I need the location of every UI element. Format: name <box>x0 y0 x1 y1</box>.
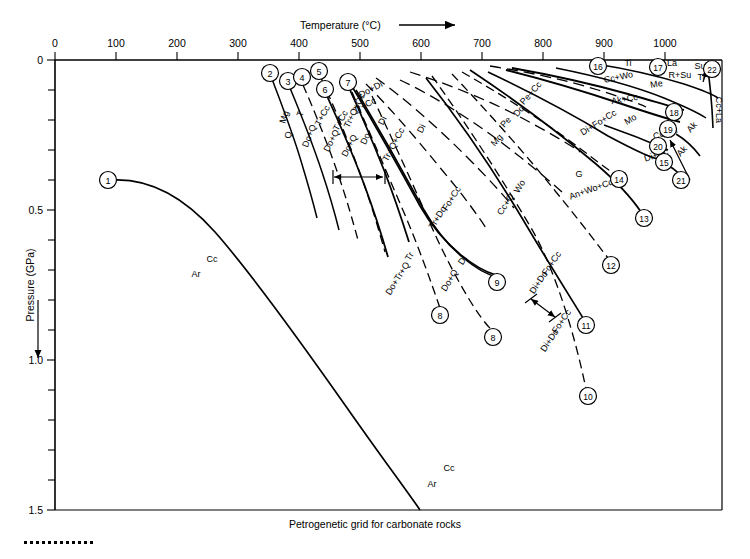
reaction-label: Ti <box>697 72 704 82</box>
marker-1: 1 <box>100 172 117 189</box>
y-tick-15: 1.5 <box>28 504 43 516</box>
marker-4: 4 <box>294 69 311 86</box>
reaction-label: G <box>575 169 582 179</box>
x-tick-200: 200 <box>168 37 186 49</box>
x-tick-500: 500 <box>351 37 369 49</box>
marker-10: 10 <box>580 388 597 405</box>
x-tick-800: 800 <box>534 37 552 49</box>
marker-15: 15 <box>656 154 673 171</box>
reaction-label: Di <box>376 114 389 126</box>
reaction-label: Cc+Q <box>495 192 516 217</box>
reaction-label: Di+Do <box>538 327 560 354</box>
marker-label: 12 <box>606 261 616 271</box>
reaction-label: Di <box>415 122 428 134</box>
marker-label: 18 <box>669 108 679 118</box>
marker-label: 19 <box>663 125 673 135</box>
reaction-label: Cc+La <box>714 97 724 123</box>
marker-label: 8 <box>437 311 442 321</box>
marker-label: 3 <box>285 77 290 87</box>
marker-label: 1 <box>105 176 110 186</box>
x-tick-600: 600 <box>412 37 430 49</box>
reaction-label: Do+Q <box>300 123 318 149</box>
marker-label: 21 <box>676 176 686 186</box>
reaction-label: Ti <box>624 58 631 68</box>
reaction-label: Do <box>358 131 372 146</box>
marker-label: 5 <box>316 67 321 77</box>
marker-label: 15 <box>659 158 669 168</box>
marker-label: 9 <box>494 278 499 288</box>
marker-20: 20 <box>650 138 667 155</box>
reaction-label: Do+Tr+Q <box>383 260 411 297</box>
reaction-label: Mo <box>622 112 638 127</box>
text-layer: Temperature (°C) 0 100 200 300 400 500 6… <box>0 0 750 559</box>
reaction-label: Tr <box>403 250 416 262</box>
y-tick-0: 0 <box>37 54 43 66</box>
reaction-label: Di+Fo+Cc <box>579 107 619 137</box>
marker-8b: 8 <box>485 329 502 346</box>
x-tick-700: 700 <box>473 37 491 49</box>
y-tick-10: 1.0 <box>28 354 43 366</box>
reaction-label: Me <box>649 78 663 90</box>
marker-18: 18 <box>666 104 683 121</box>
reaction-label: Ak <box>685 119 700 134</box>
reaction-label: Mg <box>277 110 290 125</box>
marker-17: 17 <box>650 59 667 76</box>
marker-label: 4 <box>299 73 304 83</box>
x-tick-labels: 0 100 200 300 400 500 600 700 800 900 10… <box>52 37 677 49</box>
reaction-label: Pe+Cc <box>518 79 544 106</box>
reaction-label: Cc <box>444 463 455 473</box>
x-tick-300: 300 <box>229 37 247 49</box>
x-tick-900: 900 <box>595 37 613 49</box>
reaction-label: Ak <box>675 143 690 158</box>
numbered-markers: 1 2 3 4 5 6 7 8 8 9 10 11 12 13 14 15 16… <box>100 58 721 405</box>
y-axis-title: Pressure (GPa) <box>24 249 36 322</box>
marker-label: 22 <box>707 65 717 75</box>
reaction-label: Ak+Cc <box>610 92 639 107</box>
reaction-label: Di <box>456 254 469 267</box>
x-tick-1000: 1000 <box>653 37 677 49</box>
marker-label: 7 <box>345 78 350 88</box>
marker-label: 10 <box>583 392 593 402</box>
reaction-label: An+Wo+Cc <box>568 176 615 201</box>
x-tick-0: 0 <box>52 37 58 49</box>
reaction-label: Tr+Do <box>427 204 449 230</box>
marker-label: 13 <box>639 214 649 224</box>
marker-2: 2 <box>262 65 279 82</box>
reaction-label: La <box>667 58 677 68</box>
petrogenetic-grid-figure: Temperature (°C) 0 100 200 300 400 500 6… <box>0 0 750 559</box>
marker-21: 21 <box>673 172 690 189</box>
marker-9: 9 <box>489 274 506 291</box>
reaction-label: Cc <box>207 254 218 264</box>
reaction-label: Ar <box>192 269 201 279</box>
reaction-label: T <box>295 109 307 118</box>
marker-label: 11 <box>582 321 591 331</box>
reaction-label: Cc+Wo <box>603 69 634 85</box>
reaction-label: Wo <box>512 178 528 195</box>
marker-11: 11 <box>578 317 595 334</box>
marker-label: 17 <box>653 63 663 73</box>
marker-label: 20 <box>653 142 663 152</box>
reaction-label: Tr+Q+Cc <box>380 126 406 164</box>
x-axis-title: Temperature (°C) <box>300 19 381 31</box>
reaction-label: Di+Do <box>527 269 549 296</box>
marker-22: 22 <box>704 61 721 78</box>
reaction-label: Q <box>282 130 294 140</box>
marker-label: 6 <box>322 85 327 95</box>
marker-16: 16 <box>590 58 607 75</box>
marker-label: 14 <box>614 175 624 185</box>
reaction-label: T+Cc <box>313 103 332 127</box>
x-tick-400: 400 <box>290 37 308 49</box>
marker-14: 14 <box>611 171 628 188</box>
figure-caption: Petrogenetic grid for carbonate rocks <box>289 518 461 530</box>
marker-label: 16 <box>593 62 603 72</box>
reaction-label: R+Su <box>669 70 692 80</box>
marker-5: 5 <box>311 63 328 80</box>
reaction-label: Do+Q <box>339 133 359 159</box>
reaction-label: Mg <box>489 132 505 148</box>
marker-label: 8 <box>490 333 495 343</box>
y-tick-05: 0.5 <box>28 204 43 216</box>
marker-12: 12 <box>603 257 620 274</box>
reaction-label: Do+Q <box>439 268 460 293</box>
marker-7: 7 <box>340 74 357 91</box>
reaction-label-group: Cc Ar Cc Ar Mg Q T Do+Q T+Cc Do+Q T+Cc D… <box>192 58 725 489</box>
